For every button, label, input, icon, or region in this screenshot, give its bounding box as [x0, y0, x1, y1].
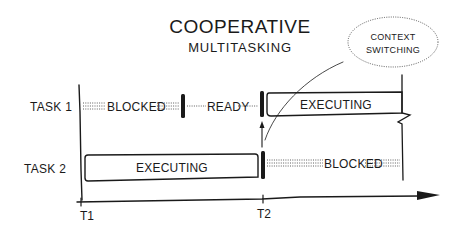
- task-1-blocked-segment: BLOCKED: [83, 100, 179, 114]
- context-switch-arrow: [260, 121, 265, 147]
- task-1-executing-label: EXECUTING: [300, 98, 372, 112]
- diagram-title: COOPERATIVE: [169, 16, 310, 37]
- task-1-blocked-label: BLOCKED: [107, 100, 166, 114]
- task-2-blocked-label: BLOCKED: [324, 157, 383, 171]
- task-1-executing-segment: EXECUTING: [267, 92, 402, 116]
- time-axis-line: [77, 196, 420, 202]
- task-1-switch-bar-2: [260, 91, 264, 117]
- task-2-label: TASK 2: [24, 162, 66, 176]
- task-1-row: BLOCKED READY EXECUTING: [83, 91, 402, 118]
- task-1-switch-bar-1: [181, 94, 185, 118]
- task-2-executing-label: EXECUTING: [136, 161, 208, 175]
- arrow-right-icon: [417, 191, 440, 200]
- left-axis-line: [79, 85, 82, 200]
- task-2-row: EXECUTING BLOCKED: [85, 151, 400, 181]
- tick-label-t2: T2: [257, 207, 271, 221]
- callout-bubble: [348, 17, 438, 67]
- task-2-blocked-segment: BLOCKED: [267, 157, 400, 171]
- task-2-executing-segment: EXECUTING: [85, 154, 258, 181]
- tick-label-t1: T1: [80, 209, 94, 223]
- time-axis: T1 T2: [77, 191, 440, 223]
- task-1-ready-segment: READY: [187, 100, 258, 114]
- right-boundary-line: [398, 75, 410, 180]
- diagram-subtitle: MULTITASKING: [188, 40, 292, 55]
- callout-line-1: CONTEXT: [370, 32, 415, 42]
- cooperative-multitasking-diagram: COOPERATIVE MULTITASKING CONTEXT SWITCHI…: [0, 0, 467, 239]
- task-1-ready-label: READY: [207, 100, 249, 114]
- callout-line-2: SWITCHING: [366, 45, 420, 55]
- task-2-switch-bar: [261, 151, 265, 179]
- task-1-label: TASK 1: [30, 100, 72, 114]
- arrow-up-icon: [260, 121, 265, 128]
